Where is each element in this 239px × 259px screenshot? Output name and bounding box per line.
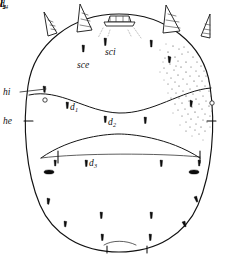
- seta-d3-left-lateral: [54, 160, 56, 166]
- seta-d2: [104, 116, 107, 123]
- label-hi: hi: [3, 88, 10, 98]
- seta-d3-right-lateral: [198, 160, 200, 166]
- seta-sci: [104, 38, 107, 46]
- label-d1: d1: [70, 103, 78, 113]
- label-sci: sci: [105, 48, 116, 58]
- label-sce: sce: [77, 61, 89, 71]
- mite-dorsal-habitus-figure: sce sci hi he d1 d2 d3 d4 l1 l2 l3: [0, 0, 239, 259]
- label-d2-sub: 2: [113, 121, 116, 128]
- propodosomal-spine-outer-right: [201, 14, 210, 38]
- seta-d2-lateral-right: [144, 117, 147, 124]
- label-l3: l3: [0, 0, 6, 10]
- gland-opening-left: [44, 170, 54, 174]
- seta-d3: [85, 160, 88, 167]
- seta-d4: [100, 212, 103, 219]
- label-d1-sub: 1: [75, 106, 78, 113]
- seta-posterior-right: [149, 234, 152, 241]
- seta-d3-right: [160, 160, 163, 167]
- label-d3-sub: 3: [94, 162, 97, 169]
- seta-sce: [82, 45, 85, 52]
- seta-posterior-left: [101, 234, 104, 241]
- pore-opening-left: [43, 98, 47, 102]
- label-d2: d2: [108, 118, 116, 128]
- pore-opening-right: [210, 101, 214, 105]
- seta-d1: [66, 102, 69, 109]
- seta-dorsal-anterior-right: [150, 40, 152, 47]
- idiosoma-outline: [25, 14, 212, 252]
- seta-d4-right: [150, 212, 153, 219]
- habitus-drawing: [0, 0, 239, 259]
- label-d3: d3: [89, 159, 97, 169]
- propodosomal-spine-inner-right: [163, 5, 180, 33]
- gland-opening-right: [189, 170, 199, 174]
- propodosomal-spine-outer-left: [44, 12, 57, 36]
- label-l3-sub: 3: [3, 3, 6, 10]
- label-he: he: [3, 117, 12, 127]
